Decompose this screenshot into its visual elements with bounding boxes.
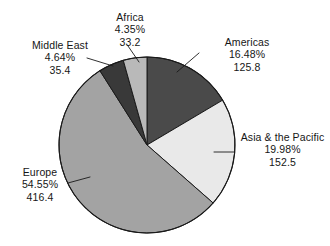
slice-label-americas-percent: 16.48% <box>203 48 291 60</box>
slice-label-americas-name: Americas <box>203 36 291 48</box>
slice-label-africa-percent: 4.35% <box>97 23 163 35</box>
slice-label-middle-east: Middle East 4.64% 35.4 <box>8 39 112 76</box>
pie-slices <box>59 57 235 233</box>
slice-label-americas: Americas 16.48% 125.8 <box>203 36 291 73</box>
slice-label-asia-and-the-pacific-name: Asia & the Pacific <box>235 131 330 143</box>
slice-label-asia-and-the-pacific-value: 152.5 <box>235 156 330 168</box>
slice-label-middle-east-name: Middle East <box>8 39 112 51</box>
slice-label-europe: Europe 54.55% 416.4 <box>2 166 78 203</box>
slice-label-europe-percent: 54.55% <box>2 178 78 190</box>
pie-chart: Africa 4.35% 33.2 Middle East 4.64% 35.4… <box>0 0 330 246</box>
slice-label-americas-value: 125.8 <box>203 61 291 73</box>
slice-label-europe-value: 416.4 <box>2 191 78 203</box>
slice-label-europe-name: Europe <box>2 166 78 178</box>
slice-label-asia-and-the-pacific-percent: 19.98% <box>235 143 330 155</box>
slice-label-africa-name: Africa <box>97 11 163 23</box>
slice-label-middle-east-percent: 4.64% <box>8 51 112 63</box>
slice-label-asia-and-the-pacific: Asia & the Pacific 19.98% 152.5 <box>235 131 330 168</box>
slice-label-middle-east-value: 35.4 <box>8 64 112 76</box>
